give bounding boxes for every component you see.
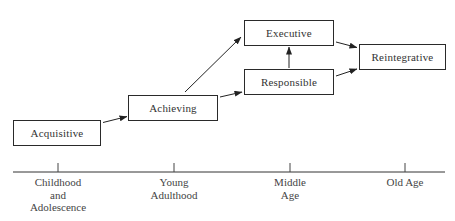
arrow-achieving-to-executive [185,37,241,92]
timeline-label-young-adulthood: Young Adulthood [150,176,197,201]
stage-box-acquisitive: Acquisitive [13,120,101,146]
arrow-executive-to-reintegrative [336,42,357,48]
stage-box-achieving: Achieving [128,95,218,121]
stage-box-executive: Executive [244,20,334,46]
stage-box-reintegrative: Reintegrative [359,44,446,70]
stage-label-achieving: Achieving [149,102,197,114]
timeline-label-old-age: Old Age [387,176,424,189]
stage-label-executive: Executive [266,27,312,39]
stage-label-acquisitive: Acquisitive [31,127,84,139]
arrow-achieving-to-responsible [220,92,242,97]
stage-box-responsible: Responsible [244,69,334,95]
timeline-label-childhood: Childhood and Adolescence [30,176,86,214]
stage-label-reintegrative: Reintegrative [372,51,434,63]
arrow-acquisitive-to-achieving [103,117,127,123]
diagram-canvas: Acquisitive Achieving Executive Responsi… [0,0,455,221]
arrow-responsible-to-reintegrative [336,69,357,76]
stage-label-responsible: Responsible [261,76,317,88]
timeline-label-middle-age: Middle Age [274,176,306,201]
